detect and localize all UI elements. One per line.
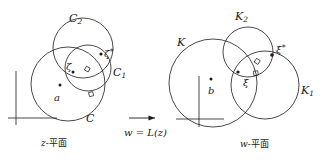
- circle-K1: [231, 51, 299, 119]
- circle-label-C2: C2: [69, 13, 82, 25]
- caption-z-plane: z-平面: [41, 139, 67, 148]
- conformal-mapping-figure: C2 C1 C ζ ζ* a z-平面 w = L(z) K2 K K1 ξ ξ…: [0, 0, 324, 160]
- circle-label-C: C: [86, 113, 94, 124]
- point-a-marker: [59, 84, 62, 87]
- caption-w-plane: w-平面: [240, 140, 269, 149]
- point-label-zeta-star: ζ*: [104, 48, 114, 59]
- circle-K2: [223, 27, 273, 77]
- point-label-zeta: ζ: [66, 62, 71, 72]
- point-label-b: b: [208, 86, 214, 96]
- point-label-xi: ξ: [243, 78, 249, 88]
- w-plane-axes: [176, 76, 224, 127]
- point-b-marker: [210, 78, 213, 81]
- intersection-node-zeta-star: [99, 52, 102, 55]
- z-plane-axes: [8, 71, 57, 125]
- transform-arrow: [129, 115, 155, 120]
- circle-label-C1: C1: [113, 67, 126, 79]
- right-angle-marker-z-2: [89, 92, 94, 97]
- circle-C: [31, 47, 105, 121]
- right-panel-w-plane: [169, 27, 299, 127]
- circle-label-K1: K1: [301, 85, 314, 97]
- transform-equation: w = L(z): [124, 128, 167, 138]
- intersection-node-xi: [236, 70, 239, 73]
- right-angle-marker-z-1: [84, 66, 90, 72]
- intersection-node-xi-star: [270, 53, 274, 57]
- right-angle-marker-w-1: [254, 58, 260, 64]
- left-panel-z-plane: [8, 18, 113, 125]
- point-label-a: a: [54, 93, 60, 103]
- arrow-head: [149, 115, 156, 120]
- point-label-xi-star: ξ*: [276, 44, 286, 55]
- intersection-node-zeta: [72, 71, 75, 74]
- circle-label-K2: K2: [235, 11, 248, 23]
- circle-label-K: K: [177, 37, 185, 48]
